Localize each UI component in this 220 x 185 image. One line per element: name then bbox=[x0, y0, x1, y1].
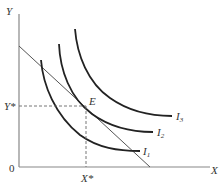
equilibrium-label: E bbox=[88, 95, 96, 107]
x-axis-label: X bbox=[210, 164, 219, 176]
origin-label: 0 bbox=[9, 162, 15, 174]
curve-label-i2: I2 bbox=[156, 126, 165, 140]
indifference-curve-diagram: Y X 0 I1 I2 I3 E Y* X* bbox=[0, 0, 220, 185]
curve-label-i3: I3 bbox=[175, 110, 184, 124]
x-star-label: X* bbox=[80, 172, 94, 184]
y-axis-label: Y bbox=[6, 5, 14, 17]
indifference-curve-2 bbox=[59, 44, 153, 132]
y-star-label: Y* bbox=[4, 100, 16, 112]
curve-label-i1: I1 bbox=[142, 145, 150, 159]
